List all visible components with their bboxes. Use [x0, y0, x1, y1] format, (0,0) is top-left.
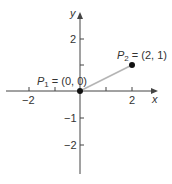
point-p1-label: P1 = (0, 0) — [37, 75, 87, 89]
coordinate-plane: y x −2 2 2 −1 −2 P1 = (0, 0) P2 = (2, 1) — [0, 0, 172, 184]
y-axis-label: y — [69, 7, 77, 19]
y-axis-arrow-icon — [77, 12, 83, 19]
y-tick-label-2: 2 — [70, 33, 76, 45]
y-tick-label-neg2: −2 — [64, 139, 77, 151]
point-p1 — [77, 88, 83, 94]
x-tick-label-neg2: −2 — [22, 94, 35, 106]
y-tick-label-neg1: −1 — [64, 112, 77, 124]
x-tick-label-2: 2 — [129, 94, 135, 106]
x-axis-label: x — [151, 93, 158, 105]
point-p2-label: P2 = (2, 1) — [117, 49, 167, 63]
point-p2 — [129, 62, 135, 68]
